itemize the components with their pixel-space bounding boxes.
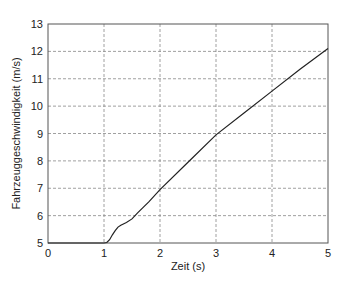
speed-line bbox=[48, 49, 328, 243]
x-tick-label: 3 bbox=[213, 247, 219, 259]
x-axis-label: Zeit (s) bbox=[171, 260, 205, 272]
x-tick-label: 2 bbox=[157, 247, 163, 259]
y-tick-label: 6 bbox=[37, 210, 43, 222]
x-tick-label: 4 bbox=[269, 247, 275, 259]
x-tick-label: 5 bbox=[325, 247, 331, 259]
y-tick-label: 8 bbox=[37, 155, 43, 167]
x-tick-label: 1 bbox=[101, 247, 107, 259]
y-tick-label: 10 bbox=[31, 100, 43, 112]
y-tick-label: 7 bbox=[37, 182, 43, 194]
y-tick-label: 13 bbox=[31, 18, 43, 30]
y-tick-label: 9 bbox=[37, 128, 43, 140]
y-tick-label: 11 bbox=[32, 73, 43, 85]
y-tick-label: 5 bbox=[37, 237, 43, 249]
y-tick-label: 12 bbox=[31, 45, 43, 57]
x-tick-label: 0 bbox=[45, 247, 51, 259]
grid-lines bbox=[48, 24, 328, 243]
y-axis-label: Fahrzeuggeschwindigkeit (m/s) bbox=[10, 57, 22, 209]
line-chart: 0123455678910111213 Zeit (s) Fahrzeugges… bbox=[0, 0, 346, 281]
axis-ticks: 0123455678910111213 bbox=[31, 18, 331, 259]
